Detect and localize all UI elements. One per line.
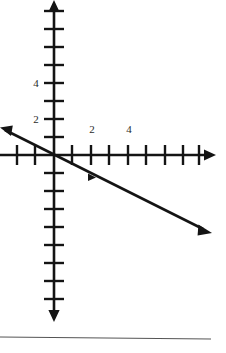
y-axis-label-4: 4 [33, 77, 39, 89]
y-axis-label-2: 2 [33, 113, 39, 125]
x-axis-label-4: 4 [126, 123, 132, 135]
y-axis [44, 0, 64, 322]
line-left-arrow-icon [0, 126, 13, 136]
graph-canvas: 4 2 2 4 [0, 0, 226, 353]
line-right-arrow-icon [198, 225, 212, 236]
y-axis-down-arrow-icon [48, 310, 59, 322]
footer-divider [0, 337, 211, 339]
x-axis-label-2: 2 [89, 123, 95, 135]
x-axis [0, 145, 216, 165]
coordinate-plane-figure: 4 2 2 4 [0, 0, 226, 353]
x-axis-right-arrow-icon [204, 149, 216, 160]
line-segment [5, 130, 203, 229]
plotted-line-series [0, 126, 212, 236]
